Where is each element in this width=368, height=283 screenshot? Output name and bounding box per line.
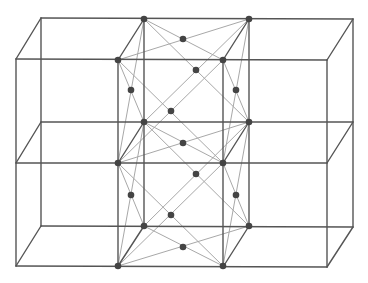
corner-atom (220, 57, 227, 64)
lattice-canvas (0, 0, 368, 283)
cube-edge (41, 226, 353, 227)
corner-atom (115, 160, 122, 167)
face-center-atom (128, 192, 135, 199)
cube-edge (16, 226, 41, 266)
face-center-atom (168, 108, 175, 115)
face-center-atom (233, 192, 240, 199)
lattice-diagram (0, 0, 368, 283)
face-center-atom (128, 87, 135, 94)
corner-atom (115, 57, 122, 64)
cube-edge (327, 19, 353, 60)
cube-edge (41, 18, 353, 19)
face-center-atom (180, 36, 187, 43)
face-center-atom (233, 87, 240, 94)
corner-atom (141, 119, 148, 126)
corner-atom (115, 263, 122, 270)
face-center-atom (180, 244, 187, 251)
face-center-atom (168, 212, 175, 219)
cube-edge (327, 122, 353, 163)
cube-edge (16, 18, 41, 59)
cube-edge (16, 122, 41, 163)
face-center-atom (180, 140, 187, 147)
cube-edge (16, 266, 327, 267)
corner-atom (141, 223, 148, 230)
corner-atom (220, 160, 227, 167)
corner-atom (246, 16, 253, 23)
face-center-atom (193, 67, 200, 74)
corner-atom (220, 263, 227, 270)
corner-atom (246, 119, 253, 126)
corner-atom (141, 16, 148, 23)
face-center-atom (193, 171, 200, 178)
cube-edge (16, 59, 327, 60)
cube-edge (327, 227, 353, 267)
corner-atom (246, 223, 253, 230)
